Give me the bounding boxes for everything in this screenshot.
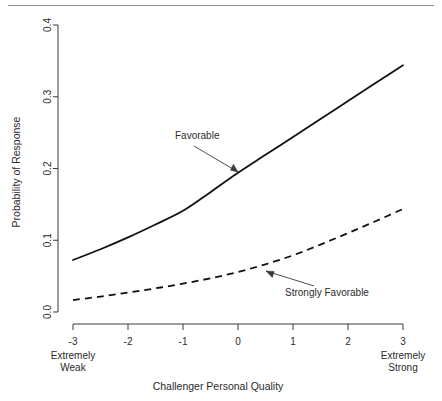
y-axis-title: Probability of Response — [10, 116, 22, 227]
y-tick-label-2: 0.2 — [42, 161, 53, 175]
y-tick-label-3: 0.3 — [42, 89, 53, 103]
x-tick-label-0: -3 — [69, 336, 78, 347]
x-axis-endcap-left: Extremely Weak — [51, 350, 95, 373]
arrowhead-strongly-favorable-icon — [266, 271, 274, 278]
annotation-strongly-favorable-label: Strongly Favorable — [285, 287, 369, 298]
x-tick-label-4: 1 — [290, 336, 296, 347]
y-tick-label-4: 0.4 — [42, 18, 53, 32]
x-tick-label-6: 3 — [400, 336, 406, 347]
endcap-right-line1: Extremely — [381, 350, 425, 361]
endcap-right-line2: Strong — [388, 362, 417, 373]
x-tick-label-5: 2 — [345, 336, 351, 347]
x-tick-label-1: -2 — [124, 336, 133, 347]
x-axis-title: Challenger Personal Quality — [153, 380, 284, 392]
annotation-favorable-label: Favorable — [175, 130, 220, 141]
endcap-left-line1: Extremely — [51, 350, 95, 361]
x-axis-endcap-right: Extremely Strong — [381, 350, 425, 373]
y-tick-label-1: 0.1 — [42, 233, 53, 247]
annotation-strongly-favorable: Strongly Favorable — [266, 271, 369, 298]
x-tick-label-2: -1 — [179, 336, 188, 347]
x-axis: -3 -2 -1 0 1 2 3 — [69, 324, 407, 347]
arrowhead-favorable-icon — [231, 164, 239, 172]
line-chart: 0.4 0.3 0.2 0.1 0.0 -3 -2 -1 0 1 2 3 Ex — [0, 0, 442, 401]
y-tick-label-0: 0.0 — [42, 305, 53, 319]
y-axis: 0.4 0.3 0.2 0.1 0.0 — [42, 18, 58, 319]
x-tick-label-3: 0 — [235, 336, 241, 347]
figure-container: 0.4 0.3 0.2 0.1 0.0 -3 -2 -1 0 1 2 3 Ex — [0, 0, 442, 401]
annotation-favorable: Favorable — [175, 130, 238, 172]
endcap-left-line2: Weak — [60, 362, 86, 373]
